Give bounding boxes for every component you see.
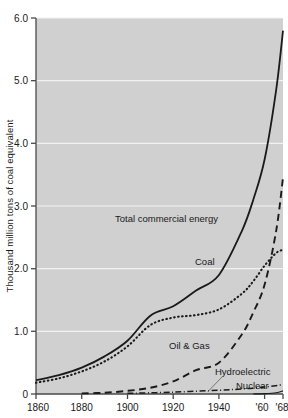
y-tick-label-1: 1.0 bbox=[14, 326, 28, 337]
series-label-oil-and-gas: Oil & Gas bbox=[169, 340, 210, 351]
series-label-hydroelectric: Hydroelectric bbox=[215, 366, 271, 377]
y-tick-label-3: 3.0 bbox=[14, 201, 28, 212]
y-tick-label-6: 6.0 bbox=[14, 13, 28, 24]
x-axis-ticks bbox=[36, 394, 283, 399]
x-tick-label-1860: 1860 bbox=[27, 402, 50, 413]
y-tick-label-2: 2.0 bbox=[14, 263, 28, 274]
y-tick-label-0: 0 bbox=[22, 389, 28, 400]
y-axis-ticks bbox=[31, 18, 36, 394]
chart-canvas: Thousand million tons of coal equivalent… bbox=[0, 0, 288, 418]
series-label-coal: Coal bbox=[195, 256, 215, 267]
series-label-total-commercial-energy: Total commercial energy bbox=[115, 213, 218, 224]
x-tick-label-1968: '68 bbox=[275, 402, 288, 413]
x-tick-label-1940: 1940 bbox=[208, 402, 231, 413]
y-axis-tick-labels: 6.0 5.0 4.0 3.0 2.0 1.0 0 bbox=[14, 13, 28, 400]
x-tick-label-1900: 1900 bbox=[116, 402, 139, 413]
series-label-nuclear: Nuclear bbox=[236, 380, 269, 391]
energy-consumption-chart: Thousand million tons of coal equivalent… bbox=[0, 0, 288, 418]
x-tick-label-1960: '60 bbox=[255, 402, 268, 413]
y-tick-label-4: 4.0 bbox=[14, 138, 28, 149]
x-tick-label-1920: 1920 bbox=[162, 402, 185, 413]
x-axis-tick-labels: 1860 1880 1900 1920 1940 '60 '68 bbox=[27, 402, 288, 413]
y-tick-label-5: 5.0 bbox=[14, 75, 28, 86]
x-tick-label-1880: 1880 bbox=[71, 402, 94, 413]
